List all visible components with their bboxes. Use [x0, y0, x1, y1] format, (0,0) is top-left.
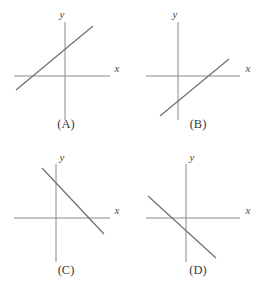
- panel-a: y x (A): [0, 0, 132, 146]
- plotted-line: [148, 196, 216, 258]
- x-axis-label: x: [245, 204, 251, 216]
- y-axis-label: y: [59, 8, 65, 20]
- panel-d: y x (D): [132, 146, 264, 292]
- x-axis-label: x: [114, 62, 120, 74]
- y-axis-label: y: [189, 151, 195, 163]
- plotted-line: [160, 59, 229, 116]
- panel-a-caption: (A): [0, 118, 132, 131]
- panel-c-plot: y x: [0, 146, 132, 270]
- multiple-choice-graph-figure: y x (A) y x (B) y x: [0, 0, 264, 292]
- panel-b-plot: y x: [132, 0, 264, 124]
- panel-d-plot: y x: [132, 146, 264, 270]
- panel-c: y x (C): [0, 146, 132, 292]
- plotted-line: [16, 26, 93, 90]
- panel-d-caption: (D): [132, 264, 264, 277]
- panel-a-plot: y x: [0, 0, 132, 124]
- panel-b: y x (B): [132, 0, 264, 146]
- panel-b-caption: (B): [132, 118, 264, 131]
- x-axis-label: x: [114, 204, 120, 216]
- x-axis-label: x: [245, 62, 251, 74]
- plotted-line: [42, 168, 104, 234]
- y-axis-label: y: [59, 151, 65, 163]
- y-axis-label: y: [172, 8, 178, 20]
- panel-c-caption: (C): [0, 264, 132, 277]
